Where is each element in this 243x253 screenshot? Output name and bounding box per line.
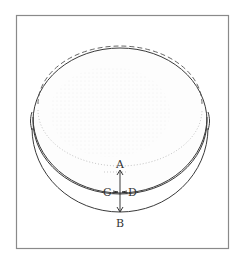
label-d: D [128,186,137,199]
label-a: A [115,158,125,171]
disc-diagram: A B C D [0,0,243,253]
label-b: B [116,217,124,230]
top-surface-shading [50,67,170,157]
label-c: C [103,186,111,199]
